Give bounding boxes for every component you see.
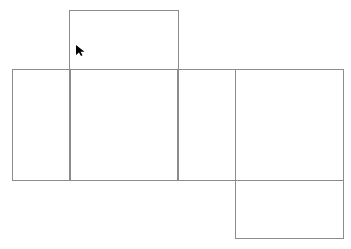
face-top: [69, 10, 179, 70]
face-left: [12, 69, 71, 181]
face-bottom: [235, 180, 344, 239]
mouse-pointer-icon: [76, 43, 86, 55]
face-right-narrow: [177, 69, 236, 181]
cube-net-diagram: [0, 0, 351, 249]
face-front: [69, 69, 179, 181]
face-back: [235, 69, 344, 181]
